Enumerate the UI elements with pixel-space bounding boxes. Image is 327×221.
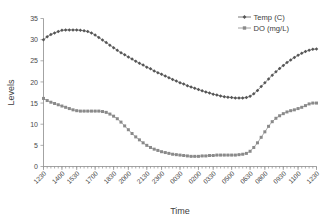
data-point-marker: [234, 154, 237, 157]
series-do: [42, 97, 318, 158]
data-point-marker: [90, 31, 94, 35]
y-tick-label: 15: [30, 100, 38, 107]
x-tick-label: 1230: [305, 170, 321, 186]
y-tick-label: 35: [30, 15, 38, 22]
data-point-marker: [127, 55, 131, 59]
data-point-marker: [315, 47, 319, 51]
data-point-marker: [226, 95, 230, 99]
x-tick-label: 1700: [84, 170, 100, 186]
legend-marker: [243, 26, 246, 29]
data-point-marker: [167, 152, 170, 155]
data-point-marker: [112, 115, 115, 118]
data-point-marker: [230, 96, 234, 100]
data-point-marker: [201, 154, 204, 157]
data-point-marker: [245, 152, 248, 155]
data-point-marker: [208, 91, 212, 95]
data-point-marker: [116, 117, 119, 120]
data-point-marker: [282, 112, 285, 115]
data-point-marker: [49, 101, 52, 104]
data-point-marker: [97, 110, 100, 113]
data-point-marker: [297, 107, 300, 110]
y-tick-label: 20: [30, 79, 38, 86]
data-point-marker: [101, 110, 104, 113]
data-point-marker: [152, 69, 156, 73]
data-point-marker: [160, 150, 163, 153]
data-point-marker: [79, 110, 82, 113]
data-point-marker: [94, 110, 97, 113]
data-point-marker: [86, 110, 89, 113]
data-point-marker: [189, 85, 193, 89]
y-tick-label: 0: [34, 163, 38, 170]
data-point-marker: [72, 108, 75, 111]
x-tick-label: 1230: [32, 170, 48, 186]
data-point-marker: [204, 90, 208, 94]
data-point-marker: [223, 154, 226, 157]
x-tick-label: 2130: [135, 170, 151, 186]
data-point-marker: [153, 148, 156, 151]
data-point-marker: [307, 48, 311, 52]
data-point-marker: [241, 96, 245, 100]
data-point-marker: [134, 59, 138, 63]
levels-vs-time-line-chart: 0510152025303512301400153017001830200021…: [0, 0, 327, 221]
x-tick-label: 1400: [51, 170, 67, 186]
chart-container: 0510152025303512301400153017001830200021…: [0, 0, 327, 221]
data-point-marker: [179, 154, 182, 157]
data-point-marker: [142, 141, 145, 144]
legend-label: DO (mg/L): [254, 24, 290, 33]
data-point-marker: [237, 96, 241, 100]
x-tick-label: 1100: [287, 170, 302, 185]
y-tick-label: 25: [30, 57, 38, 64]
data-point-marker: [267, 125, 270, 128]
data-point-marker: [296, 54, 300, 58]
x-tick-label: 0800: [253, 170, 269, 186]
data-point-marker: [211, 92, 215, 96]
legend-item-do[interactable]: DO (mg/L): [238, 24, 289, 33]
x-tick-label: 0200: [187, 170, 203, 186]
data-point-marker: [108, 113, 111, 116]
data-point-marker: [193, 87, 197, 91]
legend-item-temp[interactable]: Temp (C): [238, 13, 285, 22]
data-point-marker: [134, 135, 137, 138]
data-point-marker: [300, 51, 304, 55]
data-point-marker: [311, 102, 314, 105]
data-point-marker: [219, 94, 223, 98]
data-point-marker: [123, 124, 126, 127]
data-point-marker: [249, 150, 252, 153]
x-tick-label: 1530: [65, 170, 81, 186]
data-point-marker: [171, 153, 174, 156]
data-point-marker: [60, 29, 64, 33]
series-temp: [42, 28, 319, 100]
data-point-marker: [175, 79, 179, 83]
data-point-marker: [53, 31, 57, 35]
x-tick-label: 1830: [102, 170, 118, 186]
y-axis-title: Levels: [6, 79, 16, 106]
data-point-marker: [163, 74, 167, 78]
data-point-marker: [197, 88, 201, 92]
data-point-marker: [175, 153, 178, 156]
y-tick-label: 10: [30, 121, 38, 128]
x-tick-label: 0630: [239, 170, 255, 186]
data-point-marker: [260, 136, 263, 139]
x-tick-label: 0330: [202, 170, 218, 186]
data-point-marker: [149, 67, 153, 71]
x-tick-label: 0500: [220, 170, 236, 186]
data-point-marker: [186, 84, 190, 88]
data-point-marker: [186, 154, 189, 157]
data-point-marker: [212, 154, 215, 157]
data-point-marker: [238, 153, 241, 156]
data-point-marker: [83, 110, 86, 113]
data-point-marker: [49, 33, 53, 37]
data-point-marker: [256, 141, 259, 144]
data-point-marker: [285, 110, 288, 113]
data-point-marker: [178, 81, 182, 85]
data-point-marker: [274, 117, 277, 120]
data-point-marker: [145, 144, 148, 147]
series-line: [44, 98, 317, 156]
x-tick-label: 0030: [169, 170, 185, 186]
data-point-marker: [252, 146, 255, 149]
data-point-marker: [42, 97, 45, 100]
data-point-marker: [164, 151, 167, 154]
data-point-marker: [245, 96, 249, 100]
data-point-marker: [230, 154, 233, 157]
data-point-marker: [223, 95, 227, 99]
